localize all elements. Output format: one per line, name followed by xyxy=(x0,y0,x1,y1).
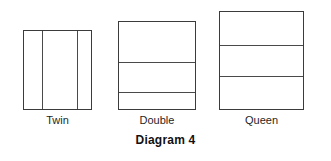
bed-label-double: Double xyxy=(118,114,196,127)
bed-rectangle-queen xyxy=(219,11,304,110)
bed-divider-twin-2 xyxy=(77,31,78,109)
diagram-canvas: Twin Double Queen Diagram 4 xyxy=(0,0,331,161)
bed-rectangle-twin xyxy=(23,30,92,110)
bed-label-twin: Twin xyxy=(23,114,92,127)
bed-divider-double-1 xyxy=(119,62,195,63)
bed-divider-queen-1 xyxy=(220,45,303,46)
bed-divider-queen-2 xyxy=(220,76,303,77)
bed-divider-twin-1 xyxy=(42,31,43,109)
bed-rectangle-double xyxy=(118,21,196,110)
bed-label-queen: Queen xyxy=(219,114,304,127)
diagram-caption: Diagram 4 xyxy=(0,133,331,147)
bed-divider-double-2 xyxy=(119,92,195,93)
